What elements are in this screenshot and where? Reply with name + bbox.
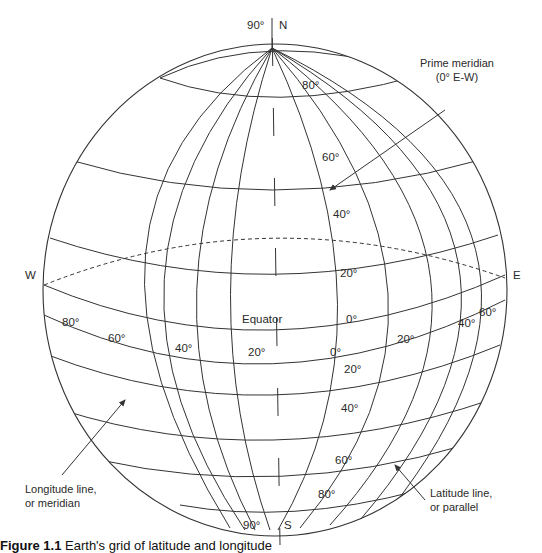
parallel-60s <box>100 445 465 477</box>
west-label: W <box>25 270 36 282</box>
lon-label-40w: 40° <box>175 343 192 355</box>
lon-label-20w: 20° <box>248 347 265 359</box>
lat-label-80s: 80° <box>318 489 335 501</box>
meridian-w40 <box>196 48 272 530</box>
meridian-w20 <box>230 48 272 530</box>
latitude-line1: Latitude line, <box>430 486 492 500</box>
south-lat-label: 90° <box>243 520 260 532</box>
lon-label-80w: 80° <box>62 317 79 329</box>
lat-label-40s: 40° <box>341 403 358 415</box>
south-pole-label: S <box>284 520 292 532</box>
parallel-40n <box>50 235 498 274</box>
lat-label-0: 0° <box>346 314 357 326</box>
prime-meridian-line1: Prime meridian <box>420 56 494 70</box>
prime-meridian-line2: (0° E-W) <box>420 70 494 84</box>
caption-label: Figure 1.1 <box>0 538 61 553</box>
north-lat-label: 90° <box>247 20 264 32</box>
parallel-80n <box>160 75 420 97</box>
meridian-e40 <box>272 48 432 525</box>
longitude-line2: or meridian <box>25 496 97 510</box>
latitude-line2: or parallel <box>430 500 492 514</box>
prime-meridian-arrow <box>330 110 445 190</box>
lat-label-20s: 20° <box>344 364 361 376</box>
meridian-e80 <box>272 48 482 510</box>
lat-label-60n: 60° <box>322 152 339 164</box>
figure-caption: Figure 1.1 Earth's grid of latitude and … <box>0 538 272 553</box>
latitude-callout: Latitude line, or parallel <box>430 486 492 515</box>
meridian-0 <box>272 48 338 530</box>
parallel-80n-back <box>160 51 420 78</box>
meridian-w60 <box>164 48 272 530</box>
lat-label-80n: 80° <box>302 80 319 92</box>
longitude-callout: Longitude line, or meridian <box>25 482 97 511</box>
lon-label-60w: 60° <box>108 333 125 345</box>
equator-label: Equator <box>242 314 282 326</box>
parallel-80s <box>180 490 420 512</box>
parallel-20s <box>48 345 500 395</box>
lat-label-40n: 40° <box>333 209 350 221</box>
lat-label-20n: 20° <box>340 268 357 280</box>
lon-label-20e: 20° <box>397 334 414 346</box>
east-label: E <box>513 270 521 282</box>
equator-back <box>44 238 505 285</box>
parallel-40s <box>62 400 490 440</box>
caption-text: Earth's grid of latitude and longitude <box>65 538 272 553</box>
north-pole-label: N <box>279 20 287 32</box>
lon-label-40e: 40° <box>458 318 475 330</box>
lat-label-60s: 60° <box>335 455 352 467</box>
longitude-line1: Longitude line, <box>25 482 97 496</box>
lon-label-0: 0° <box>330 347 341 359</box>
lon-label-60e: 60° <box>479 307 496 319</box>
prime-meridian-callout: Prime meridian (0° E-W) <box>420 56 494 85</box>
